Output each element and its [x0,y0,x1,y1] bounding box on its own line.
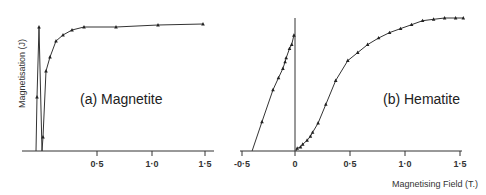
tick-label: 0·5 [343,159,356,169]
triangle-marker [283,60,287,63]
triangle-marker [316,121,320,124]
panel-b-title: (b) Hematite [383,91,460,107]
triangle-marker [260,120,264,123]
triangle-marker [271,88,275,91]
panel-a-markers [35,22,205,138]
tick-label: 1·0 [398,159,411,169]
magnetisation-figure: 0·51·01·5 (a) Magnetite Magnetisation (J… [0,0,486,195]
tick-label: 1·5 [453,159,466,169]
panel-b-curve-negative [252,35,295,151]
x-axis-label: Magnetising Field (T.) [392,179,478,189]
triangle-marker [281,67,285,70]
panel-b-x-ticks: -0·500·51·01·5 [234,151,467,169]
panel-a-title: (a) Magnetite [80,91,163,107]
triangle-marker [277,76,281,79]
panel-a-curve [36,24,203,151]
triangle-marker [37,25,41,28]
tick-label: 1·5 [198,159,211,169]
triangle-marker [284,56,288,59]
chart-canvas: 0·51·01·5 (a) Magnetite Magnetisation (J… [0,0,486,195]
triangle-marker [324,102,328,105]
panel-b-hematite: -0·500·51·01·5 (b) Hematite [234,16,467,169]
panel-b-markers [260,16,465,150]
panel-a-magnetite: 0·51·01·5 (a) Magnetite Magnetisation (J… [17,22,214,169]
panel-a-x-ticks: 0·51·01·5 [90,151,211,169]
tick-label: 0 [292,159,297,169]
triangle-marker [35,95,39,98]
y-axis-label: Magnetisation (J) [17,39,27,108]
tick-label: 1·0 [145,159,158,169]
triangle-marker [290,43,294,46]
tick-label: -0·5 [234,159,250,169]
triangle-marker [48,55,52,58]
tick-label: 0·5 [90,159,103,169]
triangle-marker [44,69,48,72]
